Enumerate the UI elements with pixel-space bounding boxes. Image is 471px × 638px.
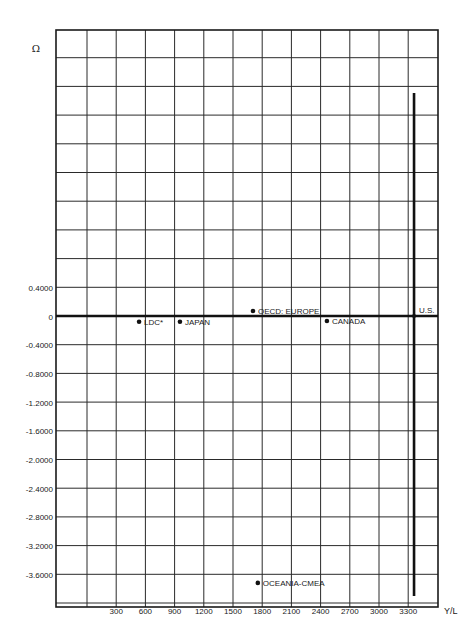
point-label: U.S. xyxy=(419,306,435,315)
y-tick-label: 0.4000 xyxy=(29,284,54,293)
x-axis-title: Y/L xyxy=(444,606,458,616)
x-tick-label: 900 xyxy=(168,607,182,616)
point-label: CANADA xyxy=(332,317,366,326)
data-point: JAPAN xyxy=(178,318,211,327)
x-tick-label: 300 xyxy=(110,607,124,616)
x-axis-labels: 3006009001200150018002100240027003000330… xyxy=(110,607,418,616)
point-label: OCEANIA-CMEA xyxy=(263,579,325,588)
point-marker-icon xyxy=(251,309,256,314)
y-tick-label: -0.4000 xyxy=(26,341,54,350)
data-point: CANADA xyxy=(325,317,366,326)
y-tick-label: -2.0000 xyxy=(26,456,54,465)
y-axis-title: Ω xyxy=(32,43,40,54)
y-tick-label: 0 xyxy=(49,313,54,322)
point-marker-icon xyxy=(178,319,183,324)
data-point: OECD: EUROPE xyxy=(251,307,320,316)
data-point: LDC* xyxy=(137,318,163,327)
data-point: OCEANIA-CMEA xyxy=(256,579,326,588)
x-tick-label: 600 xyxy=(139,607,153,616)
point-marker-icon xyxy=(137,319,142,324)
point-label: JAPAN xyxy=(185,318,210,327)
y-tick-label: -2.8000 xyxy=(26,513,54,522)
y-tick-label: -0.8000 xyxy=(26,370,54,379)
y-tick-label: -3.6000 xyxy=(26,571,54,580)
point-marker-icon xyxy=(256,581,261,586)
x-tick-label: 3000 xyxy=(370,607,388,616)
y-axis-labels: 0.40000-0.4000-0.8000-1.2000-1.6000-2.00… xyxy=(26,284,54,580)
point-marker-icon xyxy=(325,319,330,324)
y-tick-label: -1.2000 xyxy=(26,399,54,408)
x-tick-label: 3300 xyxy=(399,607,417,616)
point-marker-icon xyxy=(412,314,416,318)
x-tick-label: 1200 xyxy=(195,607,213,616)
y-tick-label: -1.6000 xyxy=(26,427,54,436)
plot-border xyxy=(56,30,438,607)
x-tick-label: 1500 xyxy=(224,607,242,616)
point-label: OECD: EUROPE xyxy=(258,307,319,316)
x-tick-label: 2100 xyxy=(283,607,301,616)
x-tick-label: 2400 xyxy=(312,607,330,616)
y-tick-label: -2.4000 xyxy=(26,485,54,494)
y-tick-label: -3.2000 xyxy=(26,542,54,551)
point-label: LDC* xyxy=(144,318,163,327)
scatter-chart: 0.40000-0.4000-0.8000-1.2000-1.6000-2.00… xyxy=(0,0,471,638)
x-tick-label: 1800 xyxy=(253,607,271,616)
grid-lines xyxy=(56,30,438,607)
x-tick-label: 2700 xyxy=(341,607,359,616)
